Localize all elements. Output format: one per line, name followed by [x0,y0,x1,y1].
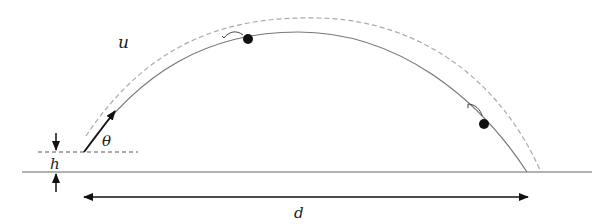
marked-point-2 [479,119,489,129]
velocity-label: u [118,32,129,52]
height-label: h [50,155,60,173]
marked-point-1 [243,34,253,44]
angle-marker-1 [222,32,243,38]
dashed-trajectory [86,18,540,170]
solid-trajectory [84,32,527,172]
projectile-diagram: u θ h d [0,0,596,224]
distance-label: d [294,204,304,222]
angle-label: θ [102,132,111,150]
